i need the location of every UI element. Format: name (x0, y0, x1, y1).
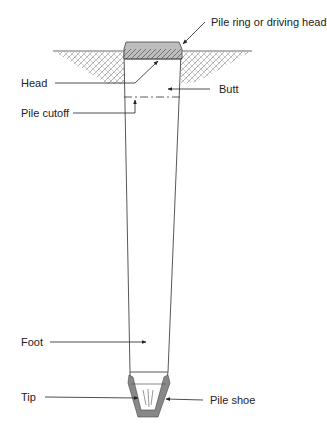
label-foot: Foot (21, 336, 43, 348)
label-pile-cutoff: Pile cutoff (21, 107, 69, 119)
pile-shoe (128, 372, 170, 417)
pile-body (124, 52, 181, 372)
label-pile-shoe: Pile shoe (210, 394, 255, 406)
label-tip: Tip (21, 391, 36, 403)
label-head: Head (21, 77, 47, 89)
label-butt: Butt (219, 83, 239, 95)
label-pile-ring: Pile ring or driving head (211, 16, 327, 28)
driving-head-cap (124, 42, 182, 59)
